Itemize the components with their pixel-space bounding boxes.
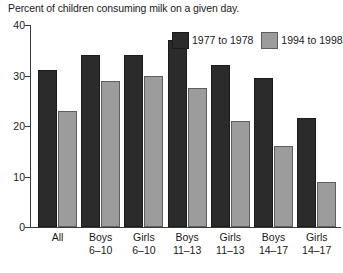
- y-axis-tick-label: 20: [1, 121, 25, 132]
- bar-series2: [317, 182, 336, 227]
- milk-consumption-bar-chart: Percent of children consuming milk on a …: [0, 0, 343, 273]
- legend-item-1994-to-1998: 1994 to 1998: [261, 32, 342, 49]
- bar-series1: [211, 65, 230, 227]
- y-axis-tick-label: 40: [1, 20, 25, 31]
- x-axis-line: [30, 227, 341, 228]
- chart-title: Percent of children consuming milk on a …: [8, 2, 239, 15]
- chart-legend: 1977 to 1978 1994 to 1998: [172, 32, 343, 49]
- bar-series2: [58, 111, 77, 227]
- bar-group: [211, 25, 250, 227]
- x-axis-tick-label: Girls14–17: [282, 231, 343, 257]
- y-axis-tick-label: 10: [1, 172, 25, 183]
- y-axis-tick-label: 30: [1, 71, 25, 82]
- x-label-line1: All: [52, 231, 64, 243]
- bar-series1: [254, 78, 273, 227]
- legend-item-1977-to-1978: 1977 to 1978: [172, 32, 253, 49]
- x-label-line2: 14–17: [282, 244, 343, 257]
- bar-series1: [81, 55, 100, 227]
- bar-series2: [101, 81, 120, 227]
- bar-series1: [297, 118, 316, 227]
- bar-group: [81, 25, 120, 227]
- bar-group: [168, 25, 207, 227]
- legend-swatch-icon-light: [261, 32, 278, 49]
- x-label-line1: Girls: [306, 231, 328, 243]
- bar-group: [124, 25, 163, 227]
- bar-series2: [144, 76, 163, 228]
- legend-label: 1994 to 1998: [281, 35, 342, 46]
- y-axis-tick: [25, 227, 31, 228]
- legend-swatch-icon-dark: [172, 32, 189, 49]
- bar-series1: [38, 70, 57, 227]
- bar-group: [254, 25, 293, 227]
- plot-area: [31, 25, 341, 227]
- bar-group: [38, 25, 77, 227]
- bar-series2: [274, 146, 293, 227]
- bar-series1: [124, 55, 143, 227]
- bar-series1: [168, 40, 187, 227]
- bar-series2: [231, 121, 250, 227]
- bar-group: [297, 25, 336, 227]
- bar-series2: [188, 88, 207, 227]
- legend-label: 1977 to 1978: [192, 35, 253, 46]
- y-axis-tick-label: 0: [1, 222, 25, 233]
